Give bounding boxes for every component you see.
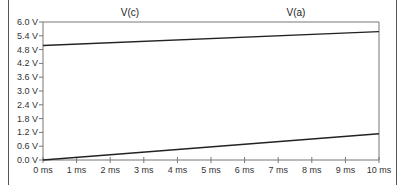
x-tick-label: 6 ms <box>235 165 255 175</box>
y-tick-label: 6.0 V <box>17 17 38 27</box>
series-label-vc: V(c) <box>121 7 139 18</box>
x-tick-label: 4 ms <box>168 165 188 175</box>
x-tick-label: 2 ms <box>100 165 120 175</box>
y-tick-label: 4.2 V <box>17 58 38 68</box>
x-tick-label: 10 ms <box>367 165 392 175</box>
y-tick-label: 1.8 V <box>17 114 38 124</box>
y-tick-label: 3.6 V <box>17 72 38 82</box>
x-tick-label: 8 ms <box>302 165 322 175</box>
y-tick-label: 3.0 V <box>17 86 38 96</box>
x-tick-label: 9 ms <box>336 165 356 175</box>
x-tick-label: 5 ms <box>201 165 221 175</box>
x-tick-label: 1 ms <box>67 165 87 175</box>
plot-series <box>43 32 379 160</box>
series-line-vc <box>43 32 379 46</box>
series-label-va: V(a) <box>287 7 306 18</box>
y-tick-label: 1.2 V <box>17 127 38 137</box>
x-tick-label: 3 ms <box>134 165 154 175</box>
y-tick-label: 5.4 V <box>17 31 38 41</box>
voltage-plot: 0.0 V0.6 V1.2 V1.8 V2.4 V3.0 V3.6 V4.2 V… <box>0 0 405 185</box>
x-tick-label: 0 ms <box>33 165 53 175</box>
y-tick-label: 4.8 V <box>17 45 38 55</box>
y-tick-label: 2.4 V <box>17 100 38 110</box>
series-line-va <box>43 134 379 160</box>
y-axis-ticks: 0.0 V0.6 V1.2 V1.8 V2.4 V3.0 V3.6 V4.2 V… <box>17 17 43 165</box>
y-tick-label: 0.0 V <box>17 155 38 165</box>
y-tick-label: 0.6 V <box>17 141 38 151</box>
x-tick-label: 7 ms <box>268 165 288 175</box>
